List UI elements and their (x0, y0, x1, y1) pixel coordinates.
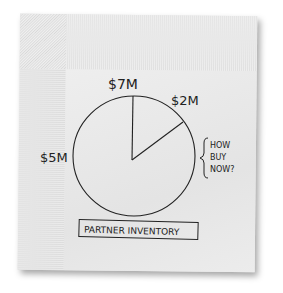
pie-outline (73, 96, 195, 216)
note-line-2: BUY (210, 153, 226, 162)
pie-divider-right (132, 122, 183, 160)
chart-caption: PARTNER INVENTORY (84, 225, 180, 238)
note-line-3: NOW? (210, 165, 234, 174)
brace-icon (200, 138, 208, 178)
note-line-1: HOW (210, 141, 230, 150)
slice-small-label: $2M (171, 93, 199, 108)
slice-large-label: $5M (40, 150, 68, 165)
total-label: $7M (108, 76, 138, 92)
pie-chart-drawing: $7M $2M $5M HOW BUY NOW? PARTNER INVENTO… (0, 0, 283, 293)
pie-divider-top (132, 96, 133, 160)
